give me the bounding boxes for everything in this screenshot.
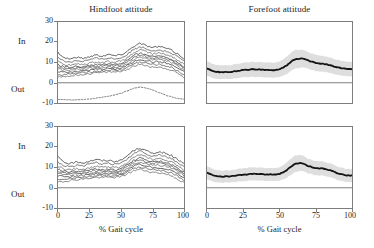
x-tick-mark-75-right [316,209,317,212]
direction-label-in-top: In [18,36,26,46]
plot-hindfoot-bottom [57,126,185,209]
x-tick-mark-25-right [243,209,244,212]
x-tick-label-100-left: 100 [177,211,189,221]
x-axis-caption-left: % Gait cycle [57,224,185,234]
panel-title-hindfoot: Hindfoot attitude [57,4,185,14]
x-tick-mark-50-right [279,209,280,212]
plot-canvas-forefoot-top [207,22,352,103]
y-tick-label-0-bottom: 0 [49,184,53,192]
x-tick-label-0-left: 0 [56,211,60,221]
y-tick-label-0-top: 0 [49,79,53,87]
x-tick-mark-100-right [352,209,353,212]
x-tick-label-25-left: 25 [85,211,93,221]
plot-canvas-hindfoot-top [58,22,184,103]
y-tick-label-minus10-top: -10 [42,99,53,107]
plot-forefoot-bottom [206,126,353,209]
y-tick-label-30-top: 30 [45,17,53,25]
y-tick-label-10-top: 10 [45,58,53,66]
x-tick-label-100-right: 100 [344,211,356,221]
trace-group-hindfoot-bottom [58,148,184,182]
plot-hindfoot-top [57,21,185,104]
panel-title-forefoot: Forefoot attitude [206,4,353,14]
x-tick-label-25-right: 25 [239,211,247,221]
x-axis-labels-left: 0 25 50 75 100 0 25 50 75 100 [0,211,374,221]
direction-label-in-bottom: In [18,141,26,151]
y-tick-label-20-bottom: 20 [45,142,53,150]
x-tick-label-0-right: 0 [205,211,209,221]
y-tick-label-10-bottom: 10 [45,163,53,171]
direction-label-out-bottom: Out [11,189,25,199]
x-tick-mark-0-right [206,209,207,212]
y-tick-label-20-top: 20 [45,37,53,45]
sd-band-forefoot-bottom [207,155,352,183]
plot-forefoot-top [206,21,353,104]
plot-canvas-hindfoot-bottom [58,127,184,208]
plot-canvas-forefoot-bottom [207,127,352,208]
trace-group-hindfoot-top [58,43,184,100]
x-tick-label-75-left: 75 [149,211,157,221]
x-tick-label-50-left: 50 [117,211,125,221]
x-axis-caption-right: % Gait cycle [206,224,353,234]
gait-attitude-figure: Hindfoot attitude Forefoot attitude 30 2… [0,0,374,248]
x-tick-label-75-right: 75 [312,211,320,221]
direction-label-out-top: Out [11,84,25,94]
y-axis-labels-top: 30 20 10 0 -10 [33,21,53,104]
trace-reference-dotted [58,87,184,100]
y-axis-labels-bottom: 30 20 10 0 -10 [33,126,53,209]
x-tick-label-50-right: 50 [276,211,284,221]
y-tick-label-30-bottom: 30 [45,122,53,130]
